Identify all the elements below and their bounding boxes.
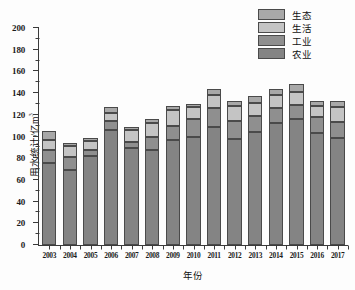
x-axis-tick-label: 2004 [63,251,77,260]
legend-item-生态[interactable]: 生态 [258,8,346,21]
bar-segment-生态[interactable] [124,127,138,130]
bar-segment-生态[interactable] [207,89,221,96]
bar-segment-工业[interactable] [310,117,324,133]
y-axis-minor-tick [36,211,40,212]
bar-segment-生态[interactable] [330,101,344,108]
bar-segment-生活[interactable] [248,103,262,116]
bar-segment-生活[interactable] [124,130,138,142]
bar-segment-农业[interactable] [330,138,344,245]
bar-stack[interactable] [207,28,221,245]
bar-segment-工业[interactable] [166,126,180,140]
bar-segment-生态[interactable] [186,104,200,107]
bar-segment-工业[interactable] [269,108,283,123]
y-axis-tick: 0 [33,244,39,245]
bar-stack[interactable] [227,28,241,245]
bar-stack[interactable] [42,28,56,245]
bar-stack[interactable] [186,28,200,245]
bar-segment-工业[interactable] [248,116,262,132]
bar-segment-农业[interactable] [124,148,138,245]
bar-stack[interactable] [269,28,283,245]
bar-stack[interactable] [248,28,262,245]
bar-segment-工业[interactable] [227,121,241,138]
bar-segment-生态[interactable] [104,107,118,112]
bar-segment-工业[interactable] [207,108,221,126]
bar-segment-工业[interactable] [289,105,303,119]
bar-segment-生态[interactable] [227,101,241,106]
bar-segment-生活[interactable] [227,106,241,121]
y-axis-minor-tick [36,233,40,234]
bar-segment-工业[interactable] [63,157,77,170]
bar-segment-生活[interactable] [269,95,283,108]
x-axis-tick-label: 2014 [269,251,283,260]
bar-segment-农业[interactable] [145,150,159,245]
y-axis-tick-label: 20 [16,218,25,228]
bar-segment-生活[interactable] [310,106,324,117]
bar-segment-生活[interactable] [289,92,303,105]
bar-segment-农业[interactable] [63,170,77,245]
bar-stack[interactable] [104,28,118,245]
x-axis-tick [338,245,339,250]
bar-stack[interactable] [83,28,97,245]
bar-segment-工业[interactable] [104,121,118,130]
bar-segment-农业[interactable] [104,130,118,245]
bar-segment-生活[interactable] [83,141,97,150]
x-axis-tick [194,245,195,250]
x-axis-tick-label: 2006 [104,251,118,260]
bar-stack[interactable] [124,28,138,245]
bar-stack[interactable] [63,28,77,245]
bar-segment-生活[interactable] [42,140,56,150]
bar-segment-农业[interactable] [289,119,303,245]
legend-swatch [258,22,285,34]
x-axis-tick [286,245,287,250]
legend-swatch [258,9,285,21]
x-axis-tick [91,245,92,250]
bar-segment-生态[interactable] [166,106,180,110]
bar-segment-生活[interactable] [145,123,159,136]
bar-segment-工业[interactable] [330,122,344,137]
bar-segment-农业[interactable] [269,123,283,245]
x-axis-tick [276,245,277,250]
bar-segment-工业[interactable] [83,150,97,157]
bar-segment-农业[interactable] [83,156,97,245]
bar-segment-工业[interactable] [124,142,138,149]
legend-label: 农业 [292,47,312,61]
bar-segment-工业[interactable] [42,150,56,163]
bar-segment-生态[interactable] [145,119,159,123]
bar-segment-农业[interactable] [166,140,180,245]
bar-segment-农业[interactable] [227,139,241,245]
bar-segment-农业[interactable] [248,132,262,245]
bar-segment-工业[interactable] [186,119,200,136]
bar-segment-生态[interactable] [289,84,303,92]
x-axis-tick [111,245,112,250]
bar-stack[interactable] [310,28,324,245]
bar-segment-生态[interactable] [83,138,97,141]
bar-segment-生态[interactable] [42,131,56,140]
bar-segment-生活[interactable] [207,95,221,108]
bar-segment-农业[interactable] [207,127,221,245]
bar-segment-生态[interactable] [248,96,262,103]
bar-stack[interactable] [289,28,303,245]
bar-segment-生态[interactable] [63,143,77,146]
bar-segment-农业[interactable] [42,163,56,245]
bar-segment-生活[interactable] [104,113,118,122]
bar-segment-生活[interactable] [330,107,344,122]
bar-stack[interactable] [145,28,159,245]
y-axis-tick-label: 0 [21,240,25,250]
bar-segment-生活[interactable] [186,107,200,119]
legend-item-工业[interactable]: 工业 [258,34,346,47]
y-axis-tick-label: 160 [12,66,25,76]
bar-stack[interactable] [166,28,180,245]
bar-segment-生态[interactable] [269,89,283,96]
legend-item-生活[interactable]: 生活 [258,21,346,34]
legend-item-农业[interactable]: 农业 [258,47,346,60]
x-axis-tick [327,245,328,250]
bar-segment-农业[interactable] [186,137,200,246]
bar-segment-生活[interactable] [166,110,180,125]
bar-segment-农业[interactable] [310,133,324,245]
bar-segment-生态[interactable] [310,101,324,106]
bar-segment-工业[interactable] [145,137,159,150]
bar-stack[interactable] [330,28,344,245]
y-axis-tick-label: 180 [12,45,25,55]
y-axis-tick: 20 [33,222,39,223]
bar-segment-生活[interactable] [63,146,77,157]
